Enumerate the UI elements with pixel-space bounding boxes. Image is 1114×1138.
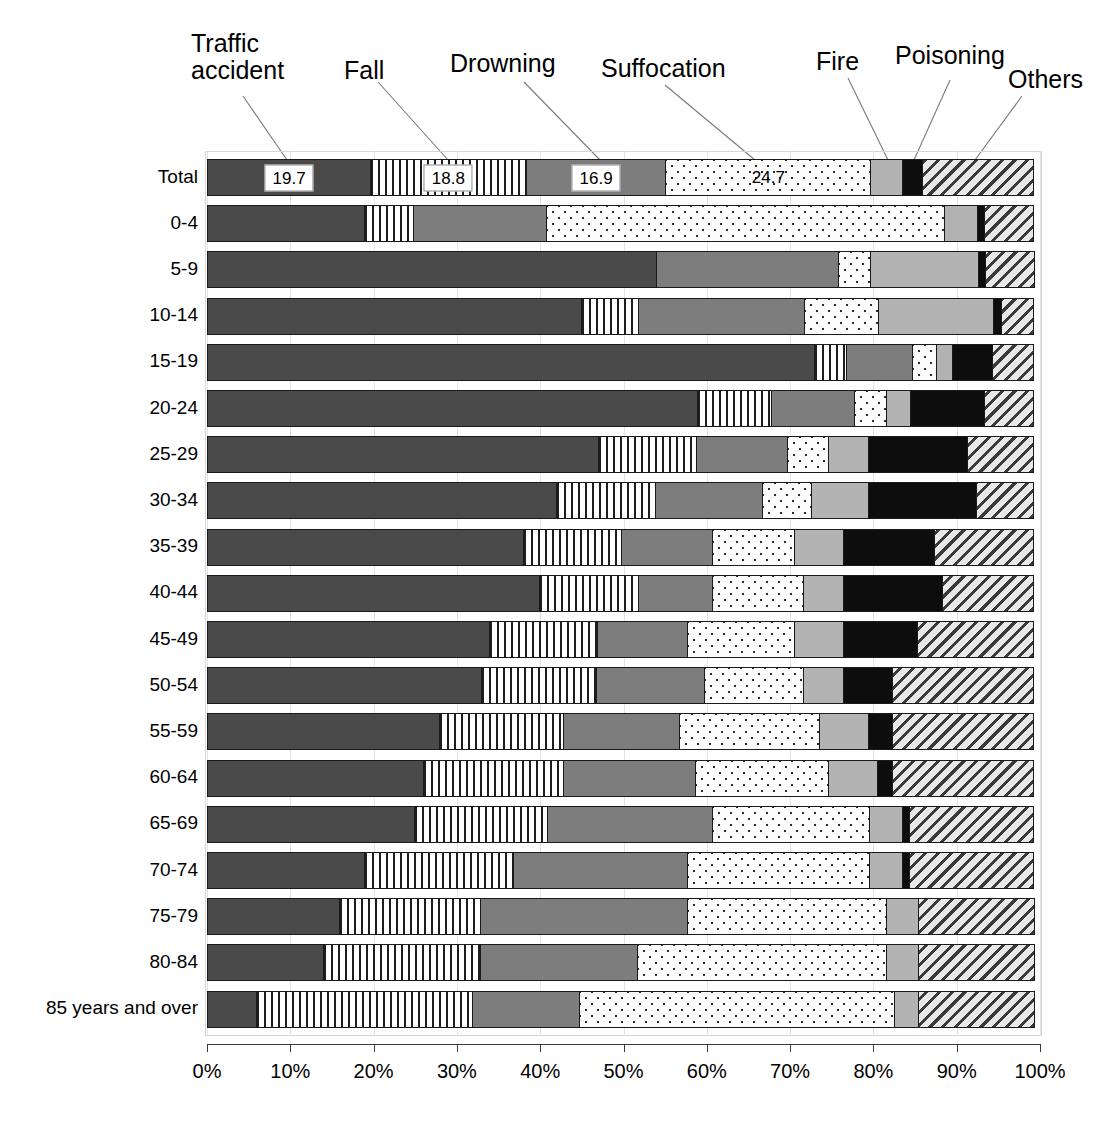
x-tick-100 bbox=[1040, 1044, 1041, 1052]
bar-segment-45-49-fall bbox=[489, 621, 597, 658]
bar-segment-30-34-fall bbox=[556, 482, 656, 519]
leader-line-drowning bbox=[524, 82, 600, 160]
x-tick-60 bbox=[707, 1044, 708, 1052]
bar-row-70-74 bbox=[207, 852, 1040, 889]
bar-segment-70-74-fall bbox=[364, 852, 514, 889]
bar-segment-10-14-suffocation bbox=[804, 298, 879, 335]
bar-segment-total-traffic-accident: 19.7 bbox=[207, 159, 371, 196]
bar-segment-85-years-and-over-fall bbox=[256, 991, 473, 1028]
bar-segment-15-19-drowning bbox=[846, 344, 913, 381]
x-tick-label-80: 80% bbox=[831, 1060, 915, 1083]
bar-segment-70-74-drowning bbox=[513, 852, 688, 889]
value-label-fall: 18.8 bbox=[424, 164, 473, 191]
bar-segment-40-44-fall bbox=[539, 575, 639, 612]
bar-row-35-39 bbox=[207, 529, 1040, 566]
bar-segment-5-9-traffic-accident bbox=[207, 251, 657, 288]
bar-segment-40-44-fire bbox=[803, 575, 845, 612]
bar-segment-45-49-others bbox=[917, 621, 1034, 658]
bar-segment-60-64-fall bbox=[423, 760, 565, 797]
category-label-85-years-and-over: 85 years and over bbox=[46, 997, 198, 1019]
bar-row-60-64 bbox=[207, 760, 1040, 797]
callout-label-traffic-accident: Trafficaccident bbox=[191, 30, 284, 84]
bar-segment-45-49-suffocation bbox=[687, 621, 795, 658]
bar-segment-55-59-drowning bbox=[563, 713, 680, 750]
x-tick-40 bbox=[540, 1044, 541, 1052]
x-tick-50 bbox=[624, 1044, 625, 1052]
bar-segment-80-84-fire bbox=[886, 944, 919, 981]
bar-row-75-79 bbox=[207, 898, 1040, 935]
bar-segment-65-69-traffic-accident bbox=[207, 806, 415, 843]
x-tick-30 bbox=[457, 1044, 458, 1052]
bar-segment-30-34-traffic-accident bbox=[207, 482, 557, 519]
bar-row-55-59 bbox=[207, 713, 1040, 750]
bar-segment-70-74-suffocation bbox=[687, 852, 870, 889]
bar-segment-50-54-fall bbox=[481, 667, 598, 704]
bar-segment-35-39-others bbox=[934, 529, 1034, 566]
bar-segment-15-19-traffic-accident bbox=[207, 344, 815, 381]
bar-segment-75-79-fall bbox=[339, 898, 481, 935]
bar-segment-total-suffocation: 24.7 bbox=[665, 159, 871, 196]
x-tick-label-40: 40% bbox=[498, 1060, 582, 1083]
bar-row-85-years-and-over bbox=[207, 991, 1040, 1028]
bar-segment-15-19-others bbox=[992, 344, 1034, 381]
bar-segment-75-79-traffic-accident bbox=[207, 898, 340, 935]
bar-segment-10-14-others bbox=[1001, 298, 1034, 335]
category-label-0-4: 0-4 bbox=[171, 212, 198, 234]
bar-segment-50-54-drowning bbox=[596, 667, 704, 704]
bar-segment-50-54-others bbox=[892, 667, 1034, 704]
bar-segment-65-69-fall bbox=[414, 806, 547, 843]
bar-segment-30-34-poisoning bbox=[868, 482, 976, 519]
bar-segment-0-4-suffocation bbox=[546, 205, 946, 242]
bar-segment-5-9-fire bbox=[870, 251, 978, 288]
bar-segment-45-49-poisoning bbox=[843, 621, 918, 658]
bar-segment-75-79-fire bbox=[886, 898, 919, 935]
x-tick-90 bbox=[957, 1044, 958, 1052]
bar-segment-35-39-suffocation bbox=[712, 529, 795, 566]
bar-segment-85-years-and-over-fire bbox=[894, 991, 919, 1028]
leader-line-suffocation bbox=[665, 85, 755, 160]
bar-segment-0-4-traffic-accident bbox=[207, 205, 365, 242]
bar-segment-80-84-traffic-accident bbox=[207, 944, 324, 981]
bar-segment-60-64-suffocation bbox=[695, 760, 828, 797]
x-tick-label-60: 60% bbox=[665, 1060, 749, 1083]
category-label-60-64: 60-64 bbox=[149, 766, 198, 788]
bar-segment-25-29-suffocation bbox=[787, 436, 829, 473]
category-label-30-34: 30-34 bbox=[149, 489, 198, 511]
value-label-drowning: 16.9 bbox=[572, 164, 621, 191]
bar-segment-45-49-drowning bbox=[597, 621, 689, 658]
bar-row-40-44 bbox=[207, 575, 1040, 612]
bar-segment-40-44-others bbox=[942, 575, 1034, 612]
bar-segment-45-49-fire bbox=[794, 621, 844, 658]
callout-label-others: Others bbox=[1008, 66, 1083, 93]
bar-segment-40-44-suffocation bbox=[712, 575, 804, 612]
bar-segment-70-74-traffic-accident bbox=[207, 852, 365, 889]
bar-row-65-69 bbox=[207, 806, 1040, 843]
bar-segment-20-24-suffocation bbox=[854, 390, 887, 427]
category-label-10-14: 10-14 bbox=[149, 304, 198, 326]
bar-segment-55-59-poisoning bbox=[868, 713, 893, 750]
bar-segment-10-14-drowning bbox=[638, 298, 805, 335]
category-label-35-39: 35-39 bbox=[149, 535, 198, 557]
x-tick-label-30: 30% bbox=[415, 1060, 499, 1083]
callout-label-fire: Fire bbox=[816, 48, 859, 75]
bar-segment-30-34-fire bbox=[811, 482, 869, 519]
bar-row-80-84 bbox=[207, 944, 1040, 981]
bar-segment-85-years-and-over-traffic-accident bbox=[207, 991, 257, 1028]
bar-segment-total-drowning: 16.9 bbox=[526, 159, 667, 196]
category-label-55-59: 55-59 bbox=[149, 720, 198, 742]
bar-segment-60-64-drowning bbox=[563, 760, 696, 797]
callout-label-drowning: Drowning bbox=[450, 50, 556, 77]
bar-segment-0-4-fall bbox=[364, 205, 414, 242]
category-label-70-74: 70-74 bbox=[149, 859, 198, 881]
bar-segment-35-39-drowning bbox=[621, 529, 713, 566]
bar-segment-35-39-fire bbox=[794, 529, 844, 566]
bar-row-0-4 bbox=[207, 205, 1040, 242]
category-label-75-79: 75-79 bbox=[149, 905, 198, 927]
bar-segment-50-54-fire bbox=[803, 667, 845, 704]
x-tick-label-70: 70% bbox=[748, 1060, 832, 1083]
bar-segment-40-44-poisoning bbox=[843, 575, 943, 612]
leader-line-fire bbox=[848, 78, 888, 160]
bar-segment-25-29-traffic-accident bbox=[207, 436, 599, 473]
bar-segment-80-84-suffocation bbox=[637, 944, 887, 981]
bar-segment-15-19-poisoning bbox=[952, 344, 994, 381]
